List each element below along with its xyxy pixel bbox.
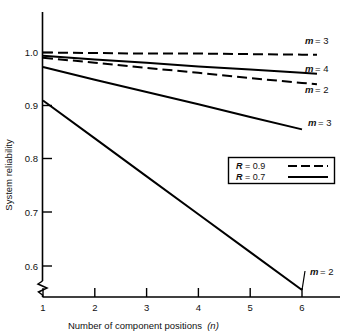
x-tick-label-3: 3 (144, 302, 149, 313)
legend-item-r07-symbol: R (236, 172, 243, 182)
annotation-m3-dashed-value: = 3 (315, 35, 328, 46)
x-axis-title: Number of component positions (n) (68, 320, 219, 331)
annotation-m3-solid-symbol: m (308, 117, 317, 128)
annotation-m2-solid-symbol: m (310, 266, 319, 277)
y-axis-title: System reliability (3, 139, 14, 211)
annotation-m2-dashed: m = 2 (305, 84, 328, 95)
annotation-m4-solid: m = 4 (305, 63, 328, 74)
reliability-line-chart: 1.0 0.9 0.8 0.7 0.6 1 2 3 4 5 6 (0, 0, 352, 334)
chart-figure: 1.0 0.9 0.8 0.7 0.6 1 2 3 4 5 6 (0, 0, 352, 334)
y-tick-label-0.6: 0.6 (25, 261, 38, 272)
y-tick-label-0.8: 0.8 (25, 153, 38, 164)
legend-item-r09-symbol: R (236, 161, 243, 171)
y-tick-label-0.9: 0.9 (25, 100, 38, 111)
annotation-m4-solid-symbol: m (305, 63, 314, 74)
x-tick-label-2: 2 (92, 302, 97, 313)
annotation-m2-dashed-symbol: m (305, 84, 314, 95)
annotation-m2-dashed-value: = 2 (315, 84, 328, 95)
annotation-m4-solid-value: = 4 (315, 63, 328, 74)
y-tick-label-0.7: 0.7 (25, 207, 38, 218)
legend-item-r09-value: = 0.9 (245, 161, 265, 171)
chart-legend[interactable]: R = 0.9 R = 0.7 (229, 158, 335, 184)
annotation-m3-dashed-symbol: m (305, 35, 314, 46)
x-axis-title-variable: (n) (207, 320, 219, 331)
x-tick-label-6: 6 (299, 302, 304, 313)
annotation-m2-solid: m = 2 (310, 266, 333, 277)
annotation-m3-dashed: m = 3 (305, 35, 328, 46)
annotation-m3-solid: m = 3 (308, 117, 331, 128)
y-tick-label-1.0: 1.0 (25, 47, 38, 58)
x-axis-title-text: Number of component positions (68, 320, 202, 331)
x-tick-label-5: 5 (248, 302, 253, 313)
annotation-m3-solid-value: = 3 (318, 117, 331, 128)
x-tick-label-4: 4 (196, 302, 201, 313)
x-tick-label-1: 1 (40, 302, 45, 313)
legend-item-r07-value: = 0.7 (245, 172, 265, 182)
annotation-m2-solid-value: = 2 (320, 266, 333, 277)
